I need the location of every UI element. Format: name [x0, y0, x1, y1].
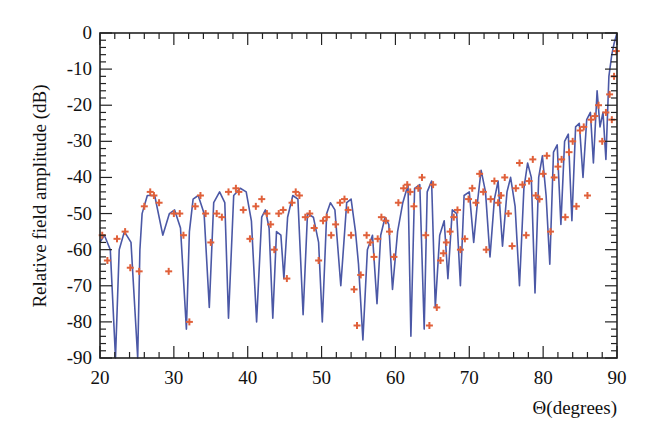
data-marker	[328, 232, 335, 239]
x-tick-label: 80	[534, 367, 553, 388]
data-marker	[584, 192, 591, 199]
data-marker	[348, 232, 355, 239]
pattern-curve	[100, 33, 617, 358]
data-marker	[225, 188, 232, 195]
data-marker	[606, 91, 613, 98]
data-marker	[536, 196, 543, 203]
data-marker	[252, 203, 259, 210]
x-tick-label: 70	[460, 367, 479, 388]
data-marker	[280, 206, 287, 213]
plot-lines	[100, 33, 617, 358]
data-marker	[113, 235, 120, 242]
y-tick-label: -90	[67, 347, 92, 368]
data-marker	[351, 286, 358, 293]
data-marker	[404, 181, 411, 188]
data-marker	[275, 210, 282, 217]
x-tick-label: 50	[312, 367, 331, 388]
data-marker	[386, 228, 393, 235]
data-marker	[501, 174, 508, 181]
y-tick-label: -70	[67, 275, 92, 296]
data-marker	[577, 127, 584, 134]
data-marker	[565, 149, 572, 156]
radiation-pattern-chart: 2030405060708090 0-10-20-30-40-50-60-70-…	[0, 0, 650, 444]
x-axis-tick-labels: 2030405060708090	[91, 367, 627, 388]
data-marker	[122, 228, 129, 235]
y-tick-label: -20	[67, 94, 92, 115]
data-marker	[465, 196, 472, 203]
data-marker	[543, 152, 550, 159]
data-marker	[218, 214, 225, 221]
data-marker	[165, 268, 172, 275]
data-marker	[487, 196, 494, 203]
data-marker	[509, 243, 516, 250]
x-tick-label: 60	[386, 367, 405, 388]
axis-ticks	[100, 33, 617, 358]
y-tick-label: -60	[67, 239, 92, 260]
y-tick-label: -10	[67, 58, 92, 79]
data-marker	[136, 268, 143, 275]
data-marker	[258, 196, 265, 203]
y-tick-label: -80	[67, 311, 92, 332]
data-marker	[150, 192, 157, 199]
y-tick-label: -30	[67, 130, 92, 151]
data-marker	[197, 192, 204, 199]
data-marker	[323, 214, 330, 221]
data-marker	[433, 304, 440, 311]
data-marker	[141, 203, 148, 210]
x-tick-label: 30	[164, 367, 183, 388]
data-marker	[469, 185, 476, 192]
data-marker	[213, 210, 220, 217]
y-axis-tick-labels: 0-10-20-30-40-50-60-70-80-90	[67, 22, 92, 368]
data-marker	[554, 163, 561, 170]
data-marker	[495, 199, 502, 206]
data-marker	[410, 203, 417, 210]
data-marker	[292, 188, 299, 195]
data-marker	[573, 203, 580, 210]
data-marker	[320, 217, 327, 224]
data-marker	[207, 239, 214, 246]
data-marker	[104, 257, 111, 264]
data-marker	[354, 322, 361, 329]
data-marker	[562, 214, 569, 221]
data-marker	[443, 239, 450, 246]
data-marker	[591, 113, 598, 120]
data-marker	[419, 174, 426, 181]
data-marker	[523, 232, 530, 239]
data-marker	[240, 206, 247, 213]
data-marker	[395, 199, 402, 206]
data-marker	[337, 199, 344, 206]
plot-frame	[100, 33, 617, 358]
y-tick-label: -40	[67, 166, 92, 187]
data-marker	[516, 160, 523, 167]
x-tick-label: 40	[238, 367, 257, 388]
data-marker	[271, 246, 278, 253]
x-tick-label: 20	[91, 367, 110, 388]
data-marker	[447, 228, 454, 235]
y-tick-label: 0	[83, 22, 93, 43]
data-marker	[363, 232, 370, 239]
x-axis-label: Θ(degrees)	[533, 397, 617, 419]
x-tick-label: 90	[608, 367, 627, 388]
y-axis-label: Relative field amplitude (dB)	[29, 84, 51, 307]
data-marker	[426, 322, 433, 329]
data-marker	[289, 199, 296, 206]
data-marker	[540, 170, 547, 177]
data-marker	[551, 174, 558, 181]
data-marker	[371, 253, 378, 260]
data-marker	[529, 156, 536, 163]
data-marker	[332, 221, 339, 228]
data-marker	[147, 188, 154, 195]
data-marker	[315, 257, 322, 264]
data-marker	[422, 232, 429, 239]
y-tick-label: -50	[67, 203, 92, 224]
